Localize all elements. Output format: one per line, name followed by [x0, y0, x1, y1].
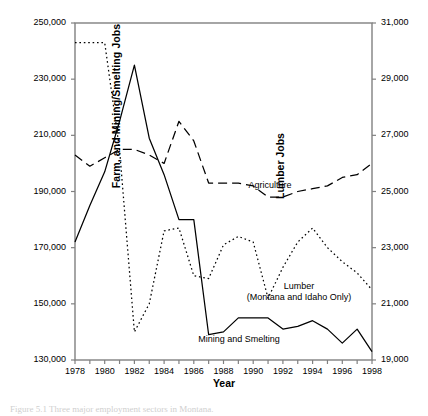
series-label-mining: Mining and Smelting [180, 334, 298, 345]
series-label-agriculture: Agriculture [228, 180, 312, 191]
figure-chart: Farm, and Mining/Smelting Jobs Lumber Jo… [0, 0, 428, 416]
series-label-lumber-line2: (Montana and Idaho Only) [238, 292, 360, 303]
series-line [75, 65, 372, 351]
figure-caption: Figure 5.1 Three major employment sector… [10, 404, 420, 414]
plot-frame [75, 23, 372, 360]
series-line [75, 121, 372, 197]
plot-area [0, 0, 428, 416]
series-label-lumber-line1: Lumber [238, 281, 360, 292]
